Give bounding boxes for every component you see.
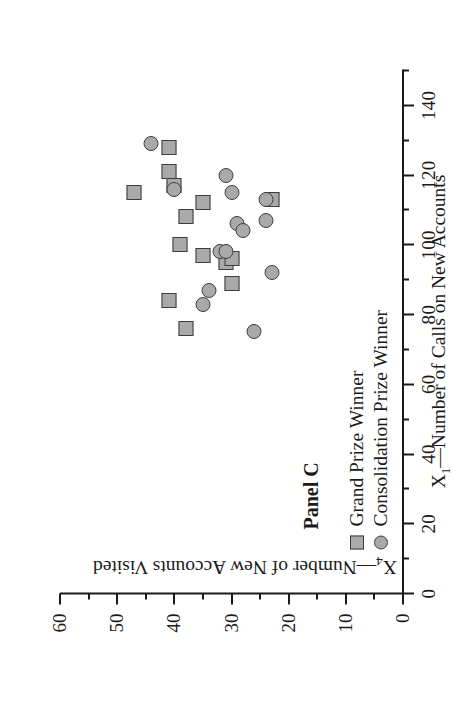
data-point bbox=[264, 265, 279, 280]
data-point bbox=[178, 321, 193, 336]
y-axis-var: X bbox=[383, 557, 397, 578]
legend-label-grand-prize: Grand Prize Winner bbox=[347, 370, 367, 526]
y-axis-minor-tick bbox=[202, 593, 204, 599]
y-axis-tick bbox=[402, 593, 404, 604]
data-point bbox=[127, 185, 142, 200]
legend-item-consolation-prize: Consolidation Prize Winner bbox=[369, 309, 393, 549]
data-point bbox=[201, 282, 216, 297]
x-axis-tick-label: 20 bbox=[418, 513, 440, 533]
y-axis-minor-tick bbox=[145, 593, 147, 599]
x-axis-minor-tick bbox=[403, 487, 409, 489]
data-point bbox=[195, 195, 210, 210]
y-axis-minor-tick bbox=[88, 593, 90, 599]
legend: Grand Prize Winner Consolidation Prize W… bbox=[345, 309, 393, 549]
square-marker-icon bbox=[350, 535, 364, 549]
x-axis-tick bbox=[403, 592, 414, 594]
y-axis-tick-label: 10 bbox=[335, 613, 357, 632]
data-point bbox=[195, 296, 210, 311]
data-point bbox=[161, 293, 176, 308]
data-point bbox=[258, 212, 273, 227]
x-axis-minor-tick bbox=[403, 139, 409, 141]
x-axis-minor-tick bbox=[403, 208, 409, 210]
data-point bbox=[161, 139, 176, 154]
y-axis-tick bbox=[116, 593, 118, 604]
data-point bbox=[224, 275, 239, 290]
x-axis-minor-tick bbox=[403, 348, 409, 350]
y-axis-tick bbox=[345, 593, 347, 604]
data-point bbox=[167, 181, 182, 196]
data-point bbox=[258, 192, 273, 207]
y-axis-tick-label: 60 bbox=[49, 613, 71, 632]
x-axis-tick bbox=[403, 104, 414, 106]
data-point bbox=[161, 164, 176, 179]
y-axis-tick-label: 20 bbox=[278, 613, 300, 632]
y-axis-subscript: 4 bbox=[376, 553, 383, 568]
data-point bbox=[195, 247, 210, 262]
legend-item-grand-prize: Grand Prize Winner bbox=[345, 309, 369, 549]
y-axis-text: —Number of New Accounts Visited bbox=[93, 557, 376, 578]
x-axis-tick bbox=[403, 174, 414, 176]
y-axis-minor-tick bbox=[373, 593, 375, 599]
x-axis-tick-label: 0 bbox=[418, 588, 440, 598]
y-axis-minor-tick bbox=[259, 593, 261, 599]
data-point bbox=[144, 136, 159, 151]
data-point bbox=[247, 324, 262, 339]
x-axis-tick bbox=[403, 522, 414, 524]
data-point bbox=[224, 185, 239, 200]
y-axis-tick bbox=[288, 593, 290, 604]
scatter-plot: 0204060801001201400102030405060 Panel C … bbox=[0, 0, 452, 725]
x-axis-tick-label: 140 bbox=[418, 90, 440, 119]
x-axis-minor-tick bbox=[403, 278, 409, 280]
x-axis-tick bbox=[403, 243, 414, 245]
x-axis-line bbox=[402, 69, 404, 593]
data-point bbox=[218, 167, 233, 182]
x-axis-tick bbox=[403, 453, 414, 455]
y-axis-minor-tick bbox=[316, 593, 318, 599]
legend-label-consolation-prize: Consolidation Prize Winner bbox=[371, 309, 391, 526]
y-axis-tick bbox=[231, 593, 233, 604]
x-axis-title: X1—Number of Calls on New Accounts bbox=[428, 174, 452, 488]
y-axis-tick bbox=[173, 593, 175, 604]
circle-marker-icon bbox=[374, 535, 388, 549]
rotated-figure: 0204060801001201400102030405060 Panel C … bbox=[0, 0, 452, 725]
x-axis-subscript: 1 bbox=[438, 467, 452, 474]
data-point bbox=[178, 209, 193, 224]
y-axis-tick-label: 50 bbox=[106, 613, 128, 632]
x-axis-var: X bbox=[428, 474, 449, 488]
data-point bbox=[218, 244, 233, 259]
x-axis-tick bbox=[403, 383, 414, 385]
y-axis-tick-label: 30 bbox=[221, 613, 243, 632]
data-point bbox=[173, 237, 188, 252]
panel-title: Panel C bbox=[300, 462, 323, 529]
x-axis-text: —Number of Calls on New Accounts bbox=[428, 174, 449, 467]
y-axis-tick-label: 0 bbox=[392, 613, 414, 623]
x-axis-minor-tick bbox=[403, 69, 409, 71]
y-axis-title: X4—Number of New Accounts Visited bbox=[25, 552, 452, 578]
data-point bbox=[235, 223, 250, 238]
y-axis-tick bbox=[59, 593, 61, 604]
x-axis-tick bbox=[403, 313, 414, 315]
y-axis-tick-label: 40 bbox=[163, 613, 185, 632]
x-axis-minor-tick bbox=[403, 418, 409, 420]
